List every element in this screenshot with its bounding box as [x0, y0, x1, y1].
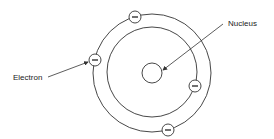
electron-bottom — [162, 124, 174, 136]
electron-left — [89, 54, 101, 66]
electron-top — [129, 11, 141, 23]
electron-label: Electron — [13, 73, 42, 82]
electron-pointer-arrow — [48, 62, 88, 77]
nucleus-label: Nucleus — [228, 19, 257, 28]
nucleus — [142, 63, 162, 83]
atom-diagram: Electron Nucleus — [0, 0, 274, 139]
electron-right — [189, 80, 201, 92]
